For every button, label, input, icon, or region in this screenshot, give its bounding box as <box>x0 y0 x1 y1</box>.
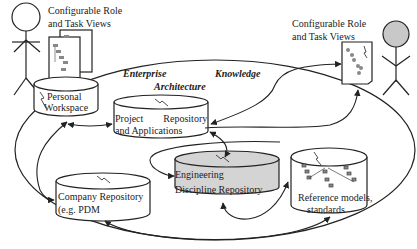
reference-models-cylinder[interactable]: Reference models, standards <box>291 148 372 215</box>
right-actor <box>382 21 410 95</box>
svg-text:standards: standards <box>307 204 345 215</box>
right-actor-label-2: and Task Views <box>292 31 355 42</box>
engineering-repository-cylinder[interactable]: Engineering Discipline Repository <box>175 151 279 195</box>
svg-text:Discipline Repository: Discipline Repository <box>175 184 263 195</box>
svg-text:Workspace: Workspace <box>44 102 89 113</box>
left-task-view-documents <box>49 30 92 81</box>
title-knowledge: Knowledge <box>214 68 261 79</box>
project-repository-cylinder[interactable]: Project Repository and Applications <box>114 95 208 138</box>
svg-text:Company Repository: Company Repository <box>58 191 143 202</box>
left-actor-label-1: Configurable Role <box>48 5 123 16</box>
right-task-view-document <box>342 42 372 84</box>
svg-text:Engineering: Engineering <box>175 169 224 180</box>
svg-text:and Applications: and Applications <box>115 125 183 136</box>
svg-text:(e.g. PDM: (e.g. PDM <box>58 204 100 216</box>
right-actor-label-1: Configurable Role <box>292 18 367 29</box>
title-enterprise: Enterprise <box>122 68 167 79</box>
svg-text:Reference models,: Reference models, <box>298 192 372 203</box>
svg-text:Personal: Personal <box>47 91 82 102</box>
enterprise-knowledge-architecture-diagram: Configurable Role and Task Views Persona… <box>0 0 417 249</box>
svg-text:Project Repository: Project Repository <box>115 113 207 124</box>
company-repository-cylinder[interactable]: Company Repository (e.g. PDM <box>56 173 150 221</box>
left-actor-label-2: and Task Views <box>48 18 111 29</box>
title-architecture: Architecture <box>153 81 206 92</box>
left-actor-head <box>12 3 40 31</box>
right-actor-head <box>383 21 409 47</box>
personal-workspace-cylinder[interactable]: Personal Workspace <box>34 77 98 116</box>
